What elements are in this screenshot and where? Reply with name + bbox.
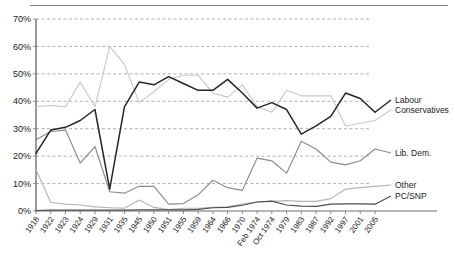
x-axis-tick-label: 1959 <box>186 215 204 235</box>
y-axis-tick-label: 40% <box>13 96 31 106</box>
y-axis-tick-label: 10% <box>13 179 31 189</box>
x-axis-tick-label: 1918 <box>24 215 42 235</box>
x-axis-tick-label: 1924 <box>68 215 86 235</box>
election-share-line-chart: 0%10%20%30%40%50%60%70% 1918192219231924… <box>0 0 455 259</box>
y-axis-tick-label: 0% <box>18 206 31 216</box>
x-axis-tick-label: 1987 <box>304 215 322 235</box>
y-axis-tick-label: 50% <box>13 69 31 79</box>
x-axis-tick-label: 1983 <box>289 215 307 235</box>
legend: LabourConservativesLib. Dem.OtherPC/SNP <box>375 95 449 204</box>
x-axis-tick-label: 1935 <box>112 215 130 235</box>
x-axis-tick-label: 1923 <box>53 215 71 235</box>
x-axis-tick-label: 1997 <box>333 215 351 235</box>
x-axis-tick-label: 1945 <box>127 215 145 235</box>
legend-label-lib-dem: Lib. Dem. <box>395 148 431 158</box>
top-divider-rule <box>30 5 448 6</box>
series-line-conservatives <box>36 46 375 126</box>
x-axis-tick-label: 1964 <box>200 215 218 235</box>
chart-canvas: 0%10%20%30%40%50%60%70% 1918192219231924… <box>0 0 455 259</box>
x-axis-tick-label: 1966 <box>215 215 233 235</box>
x-axis-tick-label: 1931 <box>97 215 115 235</box>
legend-connector-pc-snp <box>375 196 391 204</box>
legend-connector-other <box>375 185 391 186</box>
legend-connector-lib-dem <box>375 149 391 153</box>
x-axis-tick-label: 1922 <box>38 215 56 235</box>
x-axis-tick-label: 1992 <box>318 215 336 235</box>
legend-connector-conservatives <box>375 110 391 120</box>
x-axis-tick-label: 1979 <box>274 215 292 235</box>
x-axis-tick-label: 2001 <box>348 215 366 235</box>
y-axis-tick-label: 20% <box>13 151 31 161</box>
y-axis-tick-label: 30% <box>13 124 31 134</box>
x-axis-tick-label: 1950 <box>141 215 159 235</box>
x-axis-tick-label: 1951 <box>156 215 174 235</box>
x-axis-tick-labels: 1918192219231924192919311935194519501951… <box>24 215 381 248</box>
y-axis-tick-label: 70% <box>13 14 31 24</box>
x-axis-tick-label: 1955 <box>171 215 189 235</box>
legend-label-other: Other <box>395 180 416 190</box>
x-axis-tick-label: 1929 <box>83 215 101 235</box>
legend-label-pc-snp: PC/SNP <box>395 191 427 201</box>
gridlines-group <box>36 19 371 184</box>
y-axis-tick-label: 60% <box>13 42 31 52</box>
y-axis-tick-labels: 0%10%20%30%40%50%60%70% <box>13 14 36 216</box>
legend-label-conservatives: Conservatives <box>395 105 449 115</box>
series-line-lib-dem <box>36 130 375 204</box>
x-axis-tick-label: 2005 <box>363 215 381 235</box>
series-line-other <box>36 170 375 210</box>
legend-label-labour: Labour <box>395 95 422 105</box>
legend-connector-labour <box>375 100 391 112</box>
